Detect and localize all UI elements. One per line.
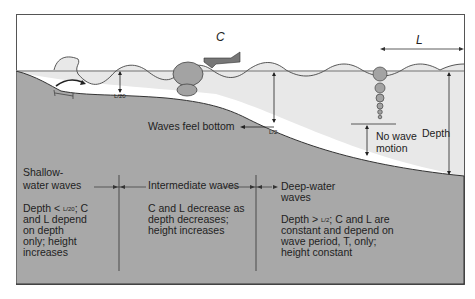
zone-deep-desc-4: height constant: [281, 247, 352, 259]
no-wave-motion-label-2: motion: [376, 143, 408, 155]
fraction: L/20: [63, 207, 75, 212]
depth-label: Depth: [422, 128, 450, 140]
l-over-2-label: L/2: [269, 130, 277, 135]
zone-shallow-title-2: water waves: [23, 180, 81, 192]
l-over-20-label: L/20: [114, 94, 126, 99]
zone-shallow-title-1: Shallow-: [23, 167, 63, 179]
celerity-label: C: [216, 32, 225, 44]
zone-intermediate-title: Intermediate waves: [148, 180, 239, 192]
zone-shallow-desc-5: increases: [23, 247, 68, 259]
wavelength-label: L: [416, 35, 423, 47]
wave-diagram: C L L/20 L/2 Waves feel bottom No wave m…: [16, 14, 465, 285]
waves-feel-bottom-label: Waves feel bottom: [148, 121, 235, 133]
no-wave-motion-label-1: No wave: [376, 131, 417, 143]
zone-deep-title-2: waves: [281, 192, 311, 204]
zone-intermediate-desc-3: height increases: [148, 225, 224, 237]
